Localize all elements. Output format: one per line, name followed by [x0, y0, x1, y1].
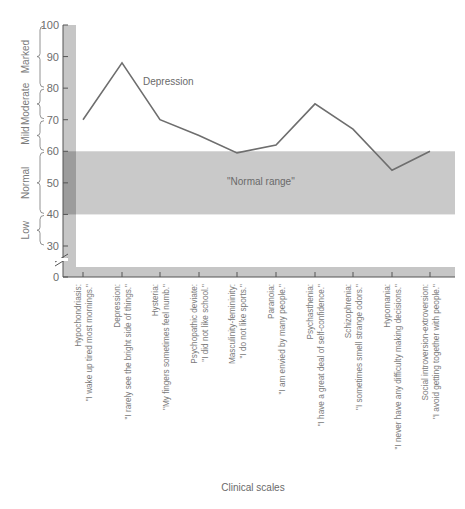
band-brace	[37, 121, 44, 151]
y-tick-label: 100	[41, 19, 59, 31]
scale-item: "I rarely see the bright side of things.…	[124, 284, 133, 420]
scale-item: "I am envied by many people."	[278, 284, 287, 395]
x-category-label: Social introversion-extroversion:"I avoi…	[421, 284, 441, 419]
x-category-label: Psychasthenia:"I have a great deal of se…	[306, 284, 326, 426]
y-tick-label: 80	[47, 82, 59, 94]
band-label-mild: Mild	[20, 126, 31, 144]
x-category-label: Hysteria:"My fingers sometimes feel numb…	[151, 284, 171, 410]
scale-name: Hypomania:	[383, 284, 392, 328]
mmpi-profile-chart: 030405060708090100MarkedModerateMildNorm…	[0, 0, 465, 509]
y-tick-label: 70	[47, 114, 59, 126]
band-brace	[37, 89, 44, 119]
annotation-depression: Depression	[143, 76, 194, 87]
axis-break-gap	[56, 258, 68, 261]
x-category-label: Paranoia:"I am envied by many people."	[267, 284, 287, 395]
scale-name: Hypochondriasis:	[74, 284, 83, 347]
band-label-moderate: Moderate	[20, 82, 31, 125]
band-label-low: Low	[20, 220, 31, 239]
x-category-label: Masculinity-femininity:"I do not like sp…	[228, 284, 248, 364]
x-category-label: Hypochondriasis:"I wake up tired most mo…	[74, 284, 94, 401]
scale-item: "I do not like sports."	[239, 284, 248, 359]
x-category-label: Hypomania:"I never have any difficulty m…	[383, 284, 403, 449]
y-tick-label: 0	[53, 271, 59, 283]
band-brace	[37, 26, 44, 87]
y-tick-label: 40	[47, 208, 59, 220]
scale-name: Psychasthenia:	[306, 284, 315, 340]
scale-name: Social introversion-extroversion:	[421, 284, 430, 401]
scale-item: "I avoid getting together with people."	[432, 284, 441, 419]
band-brace	[37, 152, 44, 213]
y-tick-label: 30	[47, 240, 59, 252]
band-brace	[37, 215, 44, 245]
scale-item: "I wake up tired most mornings."	[85, 284, 94, 401]
scale-item: "I have a great deal of self-confidence.…	[317, 284, 326, 426]
y-tick-label: 50	[47, 177, 59, 189]
annotation-normal-range: "Normal range"	[227, 176, 295, 187]
x-category-label: Psychopathic deviate:"I did not like sch…	[190, 284, 210, 364]
scale-name: Psychopathic deviate:	[190, 284, 199, 364]
scale-item: "I never have any difficulty making deci…	[394, 284, 403, 449]
scale-name: Masculinity-femininity:	[228, 284, 237, 364]
x-category-label: Schizophrenia:"I sometimes smell strange…	[344, 284, 364, 410]
scale-item: "I did not like school."	[201, 284, 210, 362]
y-tick-label: 90	[47, 51, 59, 63]
band-label-normal: Normal	[20, 167, 31, 199]
scale-name: Paranoia:	[267, 284, 276, 319]
y-tick-label: 60	[47, 145, 59, 157]
scale-item: "I sometimes smell strange odors."	[355, 284, 364, 410]
band-label-marked: Marked	[20, 40, 31, 73]
x-axis-title: Clinical scales	[221, 482, 284, 493]
x-category-label: Depression:"I rarely see the bright side…	[113, 284, 133, 420]
scale-item: "My fingers sometimes feel numb."	[162, 284, 171, 410]
scale-name: Hysteria:	[151, 284, 160, 316]
scale-name: Schizophrenia:	[344, 284, 353, 338]
scale-name: Depression:	[113, 284, 122, 328]
